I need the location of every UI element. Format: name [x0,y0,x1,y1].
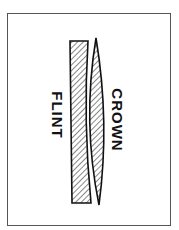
crown-label: CROWN [109,88,126,151]
doublet-lens-diagram: FLINT CROWN [0,0,179,230]
crown-lens-element [90,38,104,205]
flint-label: FLINT [49,91,66,139]
flint-lens-element [70,41,91,203]
